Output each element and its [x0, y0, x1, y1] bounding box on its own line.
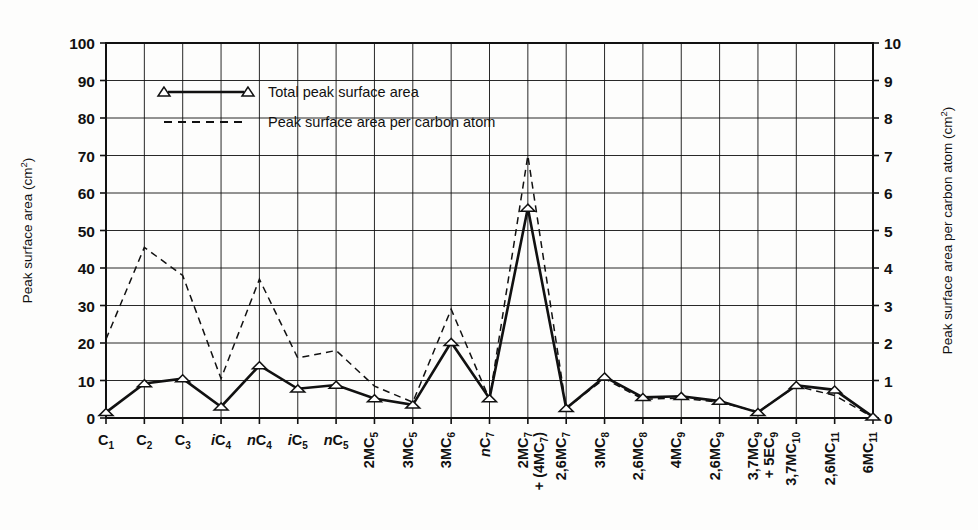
- y-tick-label-right: 6: [884, 185, 893, 202]
- y-tick-label-right: 7: [884, 148, 893, 165]
- y-tick-label-right: 1: [884, 373, 893, 390]
- y-tick-label-right: 3: [884, 298, 893, 315]
- y-tick-label-right: 8: [884, 110, 893, 127]
- y-tick-label-left: 80: [78, 110, 95, 127]
- line-chart: 0102030405060708090100 012345678910 C1C2…: [0, 0, 978, 530]
- y-axis-title-left: Peak surface area (cm2): [18, 158, 35, 304]
- y-axis-title-right: Peak surface area per carbon atom (cm2): [938, 107, 955, 355]
- grid-lines: [106, 43, 873, 418]
- chart-figure: 0102030405060708090100 012345678910 C1C2…: [0, 0, 978, 530]
- y-tick-label-left: 60: [78, 185, 95, 202]
- y-tick-label-right: 10: [884, 35, 901, 52]
- y-tick-label-right: 4: [884, 260, 893, 277]
- svg-text:Peak surface area (cm2): Peak surface area (cm2): [18, 158, 35, 304]
- y-tick-label-left: 90: [78, 73, 95, 90]
- y-tick-label-left: 30: [78, 298, 95, 315]
- y-tick-label-right: 2: [884, 335, 893, 352]
- y-tick-label-left: 0: [86, 410, 95, 427]
- y-tick-label-left: 50: [78, 223, 95, 240]
- x-category-label: 3,7MC9+ 5EC9: [745, 432, 780, 481]
- y-tick-label-left: 10: [78, 373, 95, 390]
- y-tick-label-right: 5: [884, 223, 893, 240]
- y-tick-label-right: 0: [884, 410, 893, 427]
- legend-label-total-peak-area: Total peak surface area: [268, 84, 420, 100]
- y-tick-label-left: 40: [78, 260, 95, 277]
- y-tick-label-left: 20: [78, 335, 95, 352]
- y-tick-label-left: 70: [78, 148, 95, 165]
- svg-text:Peak surface area per carbon a: Peak surface area per carbon atom (cm2): [938, 107, 955, 355]
- legend-label-per-carbon-atom: Peak surface area per carbon atom: [268, 114, 495, 130]
- y-tick-label-left: 100: [69, 35, 95, 52]
- y-tick-label-right: 9: [884, 73, 893, 90]
